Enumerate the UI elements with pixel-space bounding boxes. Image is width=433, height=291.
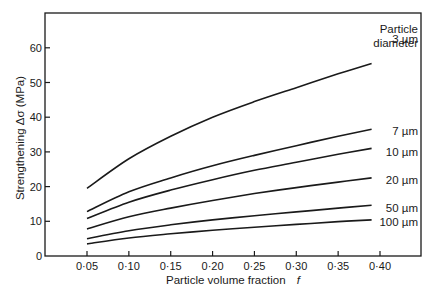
series-curves bbox=[87, 63, 372, 244]
series-line-7m bbox=[87, 129, 372, 211]
x-tick-label: 0·10 bbox=[118, 260, 140, 272]
y-tick-label: 0 bbox=[36, 250, 42, 262]
y-axis-ticks: 0102030405060 bbox=[30, 42, 50, 262]
x-tick-label: 0·40 bbox=[369, 260, 391, 272]
series-line-20m bbox=[87, 178, 372, 229]
x-tick-label: 0·05 bbox=[76, 260, 98, 272]
x-tick-label: 0·35 bbox=[327, 260, 349, 272]
series-line-100m bbox=[87, 220, 372, 244]
series-label: 7 µm bbox=[392, 125, 418, 137]
y-tick-label: 30 bbox=[30, 146, 42, 158]
series-line-3m bbox=[87, 63, 372, 188]
x-tick-label: 0·15 bbox=[160, 260, 182, 272]
x-axis-symbol: f bbox=[297, 274, 302, 286]
x-axis-ticks: 0·050·100·150·200·250·300·350·40 bbox=[76, 251, 391, 272]
y-axis-label-text: Strengthening Δσ (MPa) bbox=[14, 76, 26, 200]
legend-title-line1: Particle bbox=[380, 23, 418, 35]
y-tick-label: 60 bbox=[30, 42, 42, 54]
y-axis-label: Strengthening Δσ (MPa) bbox=[14, 76, 26, 200]
series-label: 100 µm bbox=[379, 216, 418, 228]
y-tick-label: 50 bbox=[30, 77, 42, 89]
x-axis-label: Particle volume fraction f bbox=[166, 274, 302, 286]
series-label: 10 µm bbox=[386, 146, 418, 158]
y-tick-label: 10 bbox=[30, 215, 42, 227]
legend-title-line2: diameter bbox=[373, 37, 418, 49]
y-tick-label: 40 bbox=[30, 111, 42, 123]
y-tick-label: 20 bbox=[30, 181, 42, 193]
x-tick-label: 0·30 bbox=[285, 260, 307, 272]
series-label: 20 µm bbox=[386, 174, 418, 186]
chart: 0102030405060 0·050·100·150·200·250·300·… bbox=[0, 0, 433, 291]
curve-labels: 3 µm7 µm10 µm20 µm50 µm100 µm bbox=[379, 33, 418, 228]
series-label: 50 µm bbox=[386, 202, 418, 214]
x-axis-label-text: Particle volume fraction bbox=[166, 274, 286, 286]
x-tick-label: 0·25 bbox=[243, 260, 265, 272]
x-tick-label: 0·20 bbox=[202, 260, 224, 272]
